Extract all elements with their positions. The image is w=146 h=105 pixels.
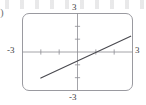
figure-container: ) 3 -3 -3 3	[0, 0, 146, 105]
x-axis-min-label: -3	[7, 46, 15, 55]
x-axis-max-label: 3	[135, 46, 140, 55]
y-axis-max-label: 3	[72, 3, 77, 12]
data-line	[41, 36, 131, 78]
y-axis-min-label: -3	[69, 93, 77, 102]
plot-graphics	[0, 0, 146, 105]
